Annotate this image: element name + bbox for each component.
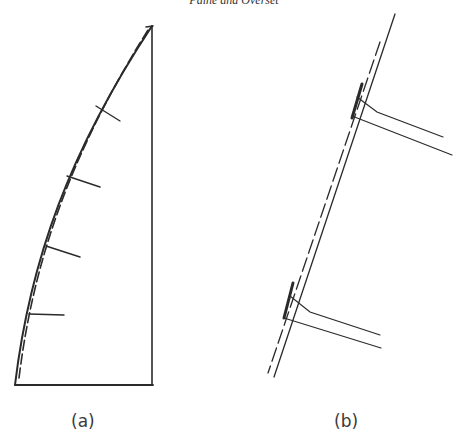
figure-a-curved-wall (15, 26, 152, 385)
figure-b-caption: (b) (334, 411, 358, 431)
figure-a-caption: (a) (71, 411, 95, 431)
figure-a-tick-4 (29, 314, 64, 315)
figure-a-tick-2 (67, 176, 100, 187)
figure-b-wall-line (274, 14, 395, 377)
figure-b-lower-member-1 (290, 296, 380, 335)
figure-b-dashed-line (268, 42, 380, 373)
figure-b-upper-member-1 (357, 97, 443, 137)
figure-b (268, 14, 452, 377)
figure-a-tick-3 (46, 246, 80, 257)
figure-b-lower-member-2 (284, 318, 381, 348)
figure-a-dashed-profile (19, 30, 148, 378)
diagram-canvas (0, 0, 468, 446)
figure-a (15, 26, 153, 385)
